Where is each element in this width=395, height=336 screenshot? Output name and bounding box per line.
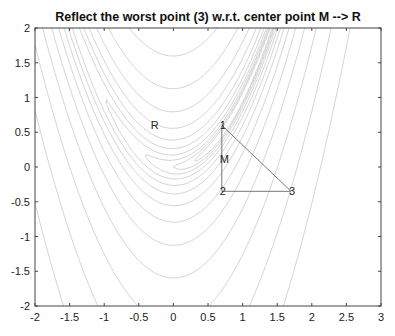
x-tick-label: -0.5 — [129, 311, 148, 323]
x-tick-label: 0.5 — [200, 311, 215, 323]
contour-line — [35, 28, 331, 306]
x-tick-label: 0 — [170, 311, 176, 323]
vertex-label: 1 — [220, 119, 226, 131]
y-axis: 21.510.50-0.5-1-1.5-2 — [11, 22, 381, 312]
contour-line — [52, 28, 296, 245]
contour-plot: 123MR -2-1.5-1-0.500.511.522.53 21.510.5… — [0, 0, 395, 336]
vertex-label: 2 — [220, 185, 226, 197]
x-tick-label: 2 — [309, 311, 315, 323]
y-tick-label: 2 — [24, 22, 30, 34]
x-tick-label: -1 — [99, 311, 109, 323]
contour-line — [35, 28, 316, 306]
y-tick-label: -1.5 — [11, 265, 30, 277]
x-tick-label: 2.5 — [339, 311, 354, 323]
contour-lines — [35, 28, 350, 306]
x-tick-label: 1 — [240, 311, 246, 323]
y-tick-label: 0.5 — [15, 126, 30, 138]
y-tick-label: -1 — [20, 231, 30, 243]
vertex-label: 3 — [289, 185, 295, 197]
contour-line — [72, 28, 278, 185]
y-tick-label: 1 — [24, 92, 30, 104]
x-tick-label: 1.5 — [270, 311, 285, 323]
x-tick-label: 3 — [378, 311, 384, 323]
y-tick-label: 1.5 — [15, 57, 30, 69]
x-tick-label: -1.5 — [60, 311, 79, 323]
contour-line — [43, 28, 305, 278]
annotation-label-r: R — [151, 119, 159, 131]
annotation-label-m: M — [220, 153, 229, 165]
x-tick-label: -2 — [30, 311, 40, 323]
y-tick-label: -0.5 — [11, 196, 30, 208]
y-tick-label: 0 — [24, 161, 30, 173]
y-tick-label: -2 — [20, 300, 30, 312]
